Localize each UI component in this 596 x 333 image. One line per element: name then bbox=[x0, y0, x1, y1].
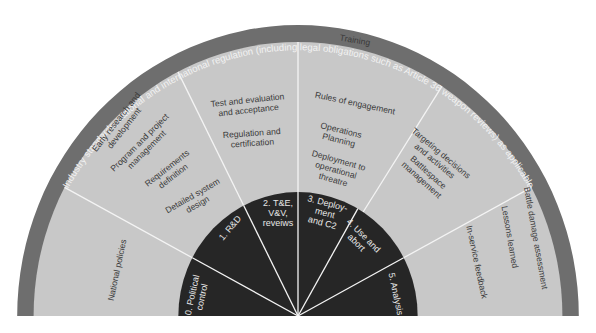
label-line: 2. T&E, bbox=[263, 198, 293, 208]
lifecycle-semicircle-diagram: Industry standards, national and interna… bbox=[0, 0, 596, 333]
label-line: V&V, bbox=[268, 208, 288, 218]
label-line: reveiws bbox=[263, 218, 294, 228]
activity-label: Regulation andcertification bbox=[222, 126, 281, 150]
